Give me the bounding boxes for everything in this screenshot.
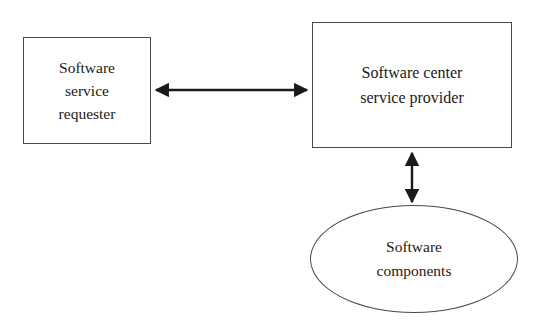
node-software-center-service-provider[interactable]: Software center service provider — [312, 22, 512, 148]
node-label-line: Software — [59, 56, 115, 79]
node-label-line: Software — [386, 235, 442, 259]
node-label-line: Software center — [362, 60, 463, 85]
node-label-line: requester — [59, 102, 116, 125]
node-software-components[interactable]: Software components — [310, 205, 518, 313]
node-label-line: components — [377, 259, 452, 283]
node-label-line: service provider — [360, 85, 464, 110]
node-label-line: service — [65, 79, 109, 102]
diagram-canvas: Software service requester Software cent… — [0, 0, 545, 336]
node-software-service-requester[interactable]: Software service requester — [23, 37, 151, 144]
